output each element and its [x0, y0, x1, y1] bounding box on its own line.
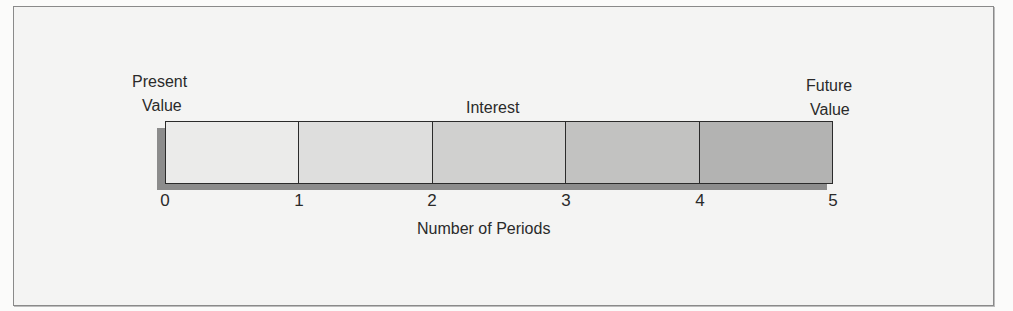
tick-5: 5 — [828, 191, 837, 211]
period-segment-5 — [700, 122, 832, 183]
present-value-label-line1: Present — [132, 72, 187, 92]
period-segment-2 — [299, 122, 432, 183]
period-segment-4 — [566, 122, 699, 183]
period-segment-1 — [166, 122, 299, 183]
future-value-label-line2: Value — [810, 100, 850, 120]
tick-1: 1 — [294, 191, 303, 211]
bar-shadow-bottom — [157, 184, 827, 190]
present-value-label-line2: Value — [142, 96, 182, 116]
period-bar — [165, 121, 833, 184]
tick-4: 4 — [695, 191, 704, 211]
interest-label: Interest — [466, 98, 519, 118]
tick-3: 3 — [561, 191, 570, 211]
tick-2: 2 — [427, 191, 436, 211]
period-segment-3 — [433, 122, 566, 183]
x-axis-label: Number of Periods — [417, 219, 550, 239]
future-value-label-line1: Future — [806, 76, 852, 96]
tick-0: 0 — [160, 191, 169, 211]
